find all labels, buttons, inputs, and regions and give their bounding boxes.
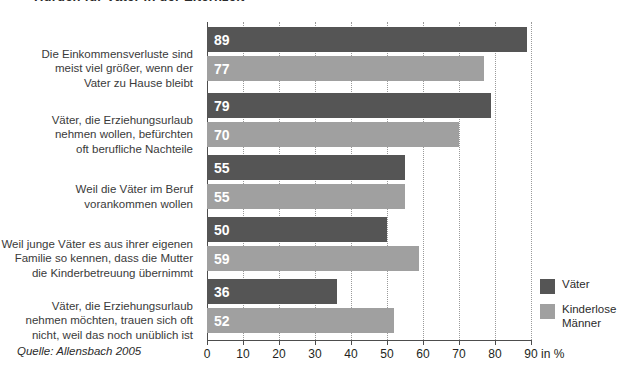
category-label-5: Väter, die Erziehungsurlaubnehmen möchte…	[0, 299, 193, 343]
category-label-line: nehmen möchten, trauen sich oft	[0, 313, 193, 328]
x-tick-10	[243, 340, 244, 345]
x-tick-label-0: 0	[204, 347, 211, 361]
category-label-2: Väter, die Erziehungsurlaubnehmen wollen…	[0, 113, 193, 157]
category-label-line: oft berufliche Nachteile	[0, 142, 193, 157]
legend-label: Väter	[562, 278, 590, 292]
bar-kinderlose-maenner-4: 59	[207, 246, 419, 271]
bar-vaeter-5: 36	[207, 279, 337, 304]
bar-value-label: 55	[214, 161, 230, 175]
category-label-4: Weil junge Väter es aus ihrer eigenenFam…	[0, 237, 193, 281]
x-tick-label-40: 40	[344, 347, 357, 361]
category-label-line: Familie so kennen, dass die Mutter	[0, 251, 193, 266]
category-label-line: Väter, die Erziehungsurlaub	[0, 299, 193, 314]
x-axis-line	[207, 340, 532, 341]
chart-title: Hürden für Väter in der Elternzeit	[34, 0, 245, 4]
bar-value-label: 50	[214, 223, 230, 237]
category-label-1: Die Einkommensverluste sindmeist viel gr…	[0, 47, 193, 91]
x-tick-80	[495, 340, 496, 345]
bar-value-label: 59	[214, 252, 230, 266]
x-tick-70	[459, 340, 460, 345]
legend-label: Kinderlose Männer	[562, 303, 616, 330]
x-tick-label-50: 50	[380, 347, 393, 361]
category-label-line: Die Einkommensverluste sind	[0, 47, 193, 62]
legend-swatch-icon	[540, 304, 555, 319]
bar-kinderlose-maenner-3: 55	[207, 184, 405, 209]
legend-swatch-icon	[540, 279, 555, 294]
x-tick-40	[351, 340, 352, 345]
legend-item-kinderlose-maenner: Kinderlose Männer	[540, 303, 616, 330]
x-tick-label-10: 10	[236, 347, 249, 361]
bar-vaeter-3: 55	[207, 155, 405, 180]
category-label-line: Weil junge Väter es aus ihrer eigenen	[0, 237, 193, 252]
bar-value-label: 77	[214, 62, 230, 76]
bar-vaeter-4: 50	[207, 217, 387, 242]
legend-item-vaeter: Väter	[540, 278, 616, 294]
x-tick-label-60: 60	[416, 347, 429, 361]
category-label-line: Weil die Väter im Beruf	[0, 182, 193, 197]
bar-kinderlose-maenner-5: 52	[207, 308, 394, 333]
chart-container: Hürden für Väter in der Elternzeit 01020…	[0, 0, 629, 373]
bar-vaeter-1: 89	[207, 27, 527, 52]
x-tick-label-80: 80	[488, 347, 501, 361]
category-label-line: vorankommen wollen	[0, 197, 193, 212]
x-tick-0	[207, 340, 208, 345]
gridline-90	[531, 22, 533, 340]
category-label-line: meist viel größer, wenn der	[0, 61, 193, 76]
bar-value-label: 89	[214, 33, 230, 47]
x-axis-unit-label: in %	[541, 347, 564, 361]
bar-kinderlose-maenner-1: 77	[207, 56, 484, 81]
x-tick-50	[387, 340, 388, 345]
bar-value-label: 36	[214, 285, 230, 299]
bar-value-label: 79	[214, 99, 230, 113]
x-tick-label-70: 70	[452, 347, 465, 361]
x-tick-label-30: 30	[308, 347, 321, 361]
category-label-line: Väter, die Erziehungsurlaub	[0, 113, 193, 128]
x-tick-30	[315, 340, 316, 345]
category-label-line: nicht, weil das noch unüblich ist	[0, 328, 193, 343]
gridline-80	[495, 22, 497, 340]
category-label-line: Vater zu Hause bleibt	[0, 76, 193, 91]
source-note: Quelle: Allensbach 2005	[17, 345, 141, 357]
x-tick-90	[531, 340, 532, 345]
chart-legend: VäterKinderlose Männer	[540, 278, 616, 339]
x-tick-60	[423, 340, 424, 345]
bar-kinderlose-maenner-2: 70	[207, 122, 459, 147]
category-label-line: die Kinderbetreuung übernimmt	[0, 266, 193, 281]
bar-value-label: 55	[214, 190, 230, 204]
bar-vaeter-2: 79	[207, 93, 491, 118]
bar-value-label: 52	[214, 314, 230, 328]
category-label-3: Weil die Väter im Berufvorankommen wolle…	[0, 182, 193, 211]
category-label-line: nehmen wollen, befürchten	[0, 127, 193, 142]
x-tick-label-90: 90	[524, 347, 537, 361]
x-tick-label-20: 20	[272, 347, 285, 361]
x-tick-20	[279, 340, 280, 345]
category-labels: Die Einkommensverluste sindmeist viel gr…	[0, 22, 200, 340]
bar-value-label: 70	[214, 128, 230, 142]
